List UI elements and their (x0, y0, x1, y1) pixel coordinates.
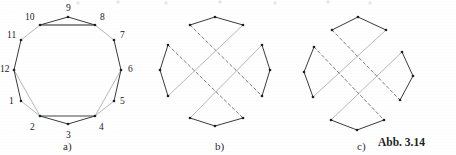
star-vertex (261, 95, 264, 98)
star-arc-segment (331, 120, 357, 130)
star-vertex (242, 117, 245, 120)
star-vertex (242, 24, 245, 27)
polygon-vertex (94, 24, 97, 27)
star-arc-segment (190, 118, 215, 126)
star-arc-segment (304, 72, 313, 97)
star-vertex (357, 16, 360, 19)
star-arc-segment (160, 45, 168, 70)
star-vertex (269, 69, 272, 72)
star-vertex (312, 96, 315, 99)
polygon-edge-dark (40, 17, 68, 25)
panel-c-dashed-chords (314, 30, 400, 120)
star-vertex (214, 125, 217, 128)
star-vertex (189, 24, 192, 27)
star-arc-segment (160, 70, 168, 96)
star-chord-light (168, 25, 243, 96)
star-vertex (159, 69, 162, 72)
polygon-vertex (20, 39, 23, 42)
star-chord-light (190, 45, 262, 118)
star-arc-segment (190, 17, 215, 25)
panel-c-light-chords (313, 30, 402, 120)
polygon-vertex (20, 100, 23, 103)
star-arc-segment (400, 76, 413, 100)
vertex-label: 1 (9, 96, 14, 106)
star-arc-segment (215, 118, 243, 126)
polygon-vertex (94, 115, 97, 118)
vertex-label: 6 (128, 64, 133, 74)
figure-caption: Abb. 3.14 (378, 136, 425, 148)
star-vertex (356, 129, 359, 132)
star-vertex (330, 119, 333, 122)
polygon-vertex (39, 115, 42, 118)
star-chord-dashed (190, 25, 262, 96)
panel-label-c: c) (357, 140, 366, 153)
star-arc-segment (215, 17, 243, 25)
star-arc-segment (262, 70, 270, 96)
vertex-label: 9 (66, 3, 71, 13)
star-vertex (261, 44, 264, 47)
star-chord-light (331, 52, 402, 120)
star-vertex (383, 119, 386, 122)
star-vertex (313, 46, 316, 49)
vertex-label: 8 (100, 12, 105, 22)
polygon-edge-light (95, 101, 114, 116)
vertex-label: 5 (120, 96, 125, 106)
polygon-edge-dark (40, 116, 68, 124)
polygon-vertex (13, 69, 16, 72)
panel-label-a: a) (63, 140, 72, 153)
polygon-vertex (67, 16, 70, 19)
star-chord-dashed (168, 45, 243, 118)
figure-abb-3-14: 123456789101112 a)b)c) Abb. 3.14 (0, 0, 456, 155)
polygon-vertex (113, 100, 116, 103)
polygon-edge-light (95, 70, 121, 116)
panel-a-vertices (13, 16, 123, 126)
polygon-edge-dark (14, 70, 21, 101)
star-arc-segment (357, 120, 384, 130)
star-vertex (385, 29, 388, 32)
star-arc-segment (402, 52, 413, 76)
panel-b-dashed-chords (168, 25, 262, 118)
vertex-label: 4 (99, 122, 104, 132)
star-arc-segment (304, 47, 314, 72)
vertex-label: 3 (66, 130, 71, 140)
star-arc-segment (262, 45, 270, 70)
star-arc-segment (358, 17, 386, 30)
panel-c-arcs (304, 17, 413, 130)
figure-canvas: 123456789101112 a)b)c) Abb. 3.14 (0, 0, 456, 155)
star-vertex (167, 95, 170, 98)
star-vertex (399, 99, 402, 102)
polygon-edge-light (95, 25, 114, 40)
panel-a-dodecagon: 123456789101112 (0, 3, 133, 140)
polygon-edge-dark (114, 40, 121, 70)
polygon-edge-light (21, 25, 40, 40)
panel-b-light-chords (168, 25, 262, 118)
star-vertex (214, 16, 217, 19)
panel-a-light-edges (14, 25, 121, 116)
polygon-edge-light (14, 70, 40, 116)
star-vertex (303, 71, 306, 74)
vertex-label: 7 (120, 30, 125, 40)
panel-c-vertices (303, 16, 415, 132)
star-chord-dashed (332, 30, 400, 100)
polygon-edge-dark (68, 17, 95, 25)
panel-labels: a)b)c) (63, 140, 366, 153)
star-vertex (412, 75, 415, 78)
polygon-vertex (67, 123, 70, 126)
star-vertex (189, 117, 192, 120)
star-chord-light (313, 30, 386, 97)
polygon-vertex (113, 39, 116, 42)
vertex-label: 12 (0, 64, 10, 74)
star-vertex (167, 44, 170, 47)
panel-b-star (159, 16, 272, 128)
polygon-edge-dark (14, 40, 21, 70)
star-chord-dashed (314, 47, 384, 120)
star-arc-segment (332, 17, 358, 30)
panel-b-vertices (159, 16, 272, 128)
polygon-edge-light (21, 101, 40, 116)
star-vertex (401, 51, 404, 54)
panel-b-arcs (160, 17, 270, 126)
panel-c-star-rotated (303, 16, 415, 132)
vertex-label: 2 (30, 122, 35, 132)
panel-a-vertex-labels: 123456789101112 (0, 3, 133, 140)
polygon-vertex (120, 69, 123, 72)
